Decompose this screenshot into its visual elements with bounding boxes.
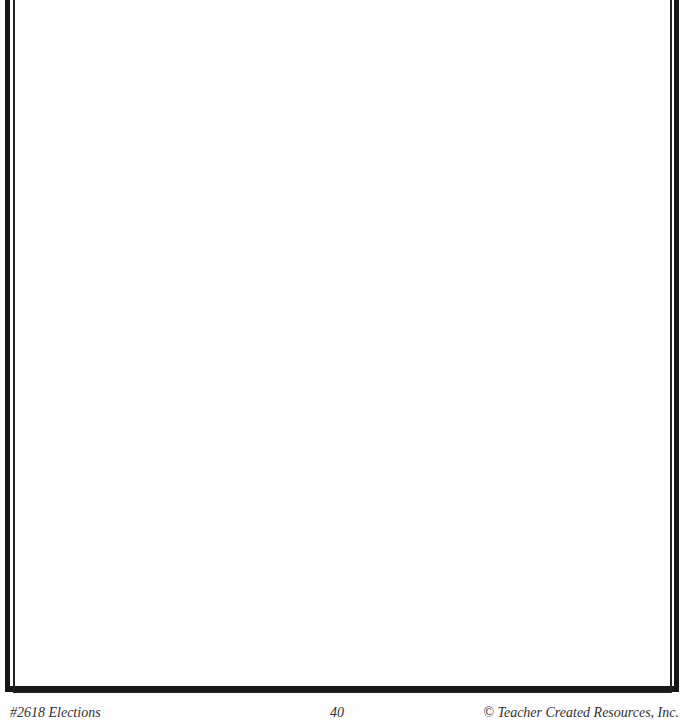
footer-page-number: 40 [330, 703, 344, 723]
footer-copyright: © Teacher Created Resources, Inc. [483, 703, 679, 723]
footer-book-number: #2618 Elections [10, 703, 101, 723]
page-footer: #2618 Elections 40 © Teacher Created Res… [0, 703, 683, 723]
blank-writing-area [16, 0, 669, 690]
